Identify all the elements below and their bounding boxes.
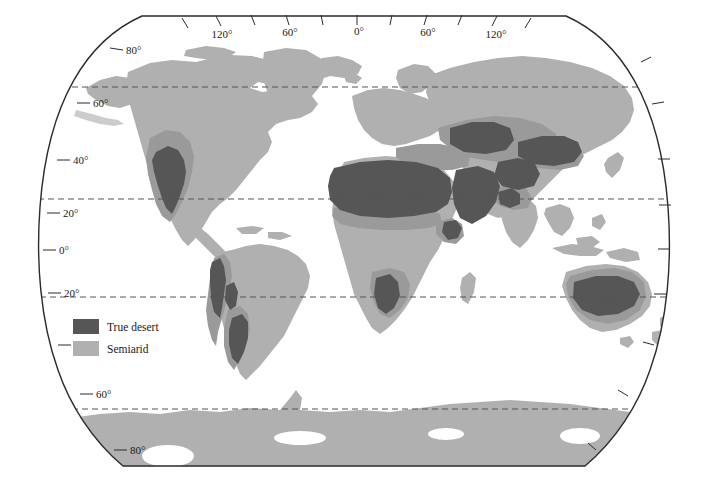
legend-swatch-true-desert bbox=[73, 319, 99, 334]
lat-label-80n: 80° bbox=[126, 44, 141, 56]
legend-swatch-semiarid bbox=[73, 341, 99, 356]
lon-label-0: 0° bbox=[354, 25, 364, 37]
lon-label-60e: 60° bbox=[420, 26, 435, 38]
lon-label-120w: 120° bbox=[212, 28, 233, 40]
lat-label-60n: 60° bbox=[93, 97, 108, 109]
world-desert-map-figure: 120° 60° 0° 60° 120° 80° 60° 40° 20° 0° … bbox=[0, 0, 708, 498]
lon-label-60w: 60° bbox=[282, 26, 297, 38]
lat-label-40n: 40° bbox=[73, 154, 88, 166]
lon-label-120e: 120° bbox=[486, 28, 507, 40]
lat-label-20n: 20° bbox=[63, 207, 78, 219]
lat-label-80s: 80° bbox=[130, 444, 145, 456]
lat-label-0: 0° bbox=[59, 244, 69, 256]
legend-label-semiarid: Semiarid bbox=[107, 343, 149, 355]
legend-label-true-desert: True desert bbox=[107, 321, 159, 333]
lat-label-60s: 60° bbox=[96, 388, 111, 400]
desert-karakum-kyzylkum bbox=[450, 122, 514, 154]
map-canvas: 120° 60° 0° 60° 120° 80° 60° 40° 20° 0° … bbox=[0, 0, 708, 498]
lat-label-20s: 20° bbox=[64, 287, 79, 299]
desert-sahara bbox=[328, 160, 452, 218]
